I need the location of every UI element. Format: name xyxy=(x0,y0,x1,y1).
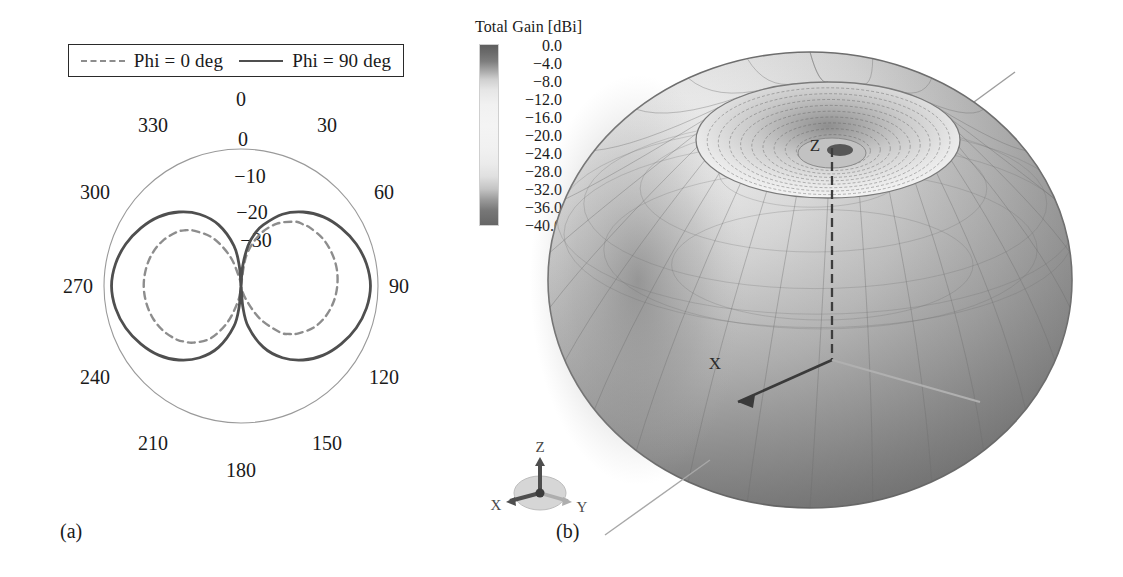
figure-root: Phi = 0 deg Phi = 90 deg 0 30 60 90 120 … xyxy=(0,0,1123,577)
angle-label-150: 150 xyxy=(312,433,342,453)
polar-plot-svg xyxy=(126,171,356,401)
polar-legend: Phi = 0 deg Phi = 90 deg xyxy=(68,44,404,77)
angle-label-330: 330 xyxy=(138,115,168,135)
angle-label-270: 270 xyxy=(63,276,93,296)
triad-label-y: Y xyxy=(577,500,588,515)
angle-label-120: 120 xyxy=(369,367,399,387)
legend-label-phi-90: Phi = 90 deg xyxy=(292,51,391,70)
angle-label-0: 0 xyxy=(236,89,246,109)
radiation-pattern-3d xyxy=(510,30,1110,530)
curve-phi-90-deg xyxy=(112,212,371,360)
solid-line-swatch-icon xyxy=(239,60,283,62)
triad-axis-y-arrow xyxy=(562,497,572,506)
series-curve-phi-90 xyxy=(112,212,371,360)
legend-entry-phi-90: Phi = 90 deg xyxy=(239,51,391,70)
polar-plot-canvas xyxy=(126,171,356,401)
triad-axis-x-arrow xyxy=(506,497,516,506)
dashed-line-swatch-icon xyxy=(81,60,125,62)
radial-label-0: 0 xyxy=(238,129,248,149)
triad-origin xyxy=(536,489,545,498)
orientation-axis-triad[interactable]: Z X Y xyxy=(488,435,598,520)
triad-label-x: X xyxy=(491,498,502,513)
angle-label-180: 180 xyxy=(226,460,256,480)
angle-label-60: 60 xyxy=(374,182,394,202)
plot-axis-label-x: X xyxy=(709,355,721,372)
angle-label-240: 240 xyxy=(80,367,110,387)
triad-axis-z-arrow xyxy=(535,457,545,466)
colorbar-gradient xyxy=(479,44,499,226)
caption-panel-a: (a) xyxy=(60,520,82,543)
caption-panel-b: (b) xyxy=(556,520,579,543)
triad-label-z: Z xyxy=(535,440,544,455)
angle-label-210: 210 xyxy=(138,433,168,453)
radiation-pattern-svg xyxy=(510,30,1110,530)
panel-a-polar-plot: Phi = 0 deg Phi = 90 deg 0 30 60 90 120 … xyxy=(0,0,470,577)
angle-label-30: 30 xyxy=(317,115,337,135)
panel-b-3d-pattern: Total Gain [dBi] 0.0−4.0−8.0−12.0−16.0−2… xyxy=(470,0,1123,577)
legend-label-phi-0: Phi = 0 deg xyxy=(134,51,223,70)
angle-label-300: 300 xyxy=(80,182,110,202)
angle-label-90: 90 xyxy=(389,276,409,296)
plot-axis-label-z: Z xyxy=(810,137,820,154)
legend-entry-phi-0: Phi = 0 deg xyxy=(81,51,223,70)
